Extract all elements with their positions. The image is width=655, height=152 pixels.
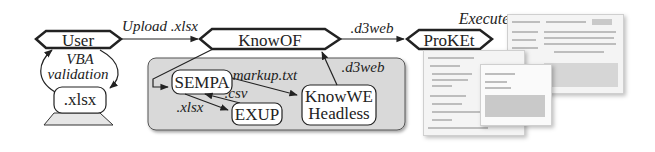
markup-label: markup.txt [233, 67, 298, 83]
user-label: User [62, 31, 94, 50]
proket-label: ProKEt [424, 31, 475, 50]
vba-label-line2: validation [48, 66, 109, 82]
vba-label-line1: VBA [66, 51, 94, 67]
upload-label: Upload .xlsx [122, 18, 198, 34]
d3web-out-label: .d3web [351, 20, 394, 36]
exup-label: EXUP [235, 105, 279, 124]
sempa-label: SEMPA [174, 73, 230, 92]
knowof-label: KnowOF [238, 31, 301, 50]
proket-screenshot-front [480, 64, 552, 126]
xlsx-local-label: .xlsx [64, 90, 97, 109]
csv-label: .csv [225, 85, 248, 101]
xlsx-exup-label: .xlsx [176, 99, 203, 115]
d3web-back-label: .d3web [342, 59, 385, 75]
local-storage-shape [44, 113, 113, 125]
knowwe-label-line2: Headless [308, 104, 369, 123]
execute-label: Execute [458, 10, 510, 27]
